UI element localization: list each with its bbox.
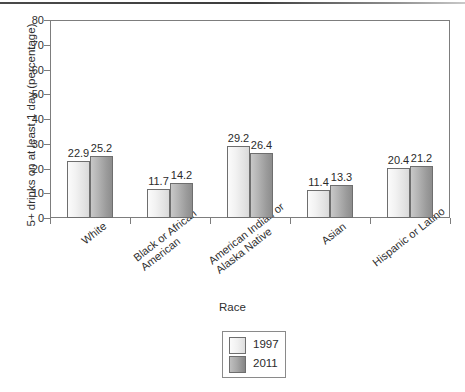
- x-axis-title: Race: [0, 301, 465, 313]
- bar-1997-2: [227, 146, 250, 218]
- bar-2011-4: [410, 166, 433, 218]
- y-tick-label: 60: [22, 65, 44, 76]
- bar-value-label: 14.2: [166, 170, 198, 181]
- legend: 1997 2011: [222, 331, 286, 378]
- legend-swatch-2011: [229, 356, 246, 373]
- bar-value-label: 26.4: [246, 140, 278, 151]
- legend-swatch-1997: [229, 337, 246, 354]
- y-tick-label: 40: [22, 114, 44, 125]
- y-tick-label: 20: [22, 164, 44, 175]
- bar-1997-1: [147, 189, 170, 218]
- bar-1997-4: [387, 168, 410, 218]
- legend-label-1997: 1997: [253, 338, 279, 351]
- y-tick-label: 70: [22, 40, 44, 51]
- x-tick-mark: [450, 218, 451, 224]
- bar-2011-3: [330, 185, 353, 218]
- bar-2011-0: [90, 156, 113, 218]
- bar-value-label: 21.2: [406, 153, 438, 164]
- bar-1997-3: [307, 190, 330, 218]
- legend-label-2011: 2011: [253, 357, 278, 370]
- y-tick-label: 50: [22, 89, 44, 100]
- y-tick-label: 10: [22, 188, 44, 199]
- y-tick-label: 0: [22, 213, 44, 224]
- bar-value-label: 25.2: [86, 143, 118, 154]
- bar-value-label: 13.3: [326, 172, 358, 183]
- bar-2011-1: [170, 183, 193, 218]
- bar-chart-figure: 5+ drinks on at least 1 day (percentage)…: [0, 0, 465, 392]
- x-category-label: Asian: [319, 220, 348, 246]
- x-tick-mark: [370, 218, 371, 224]
- bar-1997-0: [67, 161, 90, 218]
- y-tick-label: 80: [22, 15, 44, 26]
- x-tick-mark: [50, 218, 51, 224]
- bar-2011-2: [250, 153, 273, 218]
- x-category-label: White: [79, 219, 109, 246]
- y-tick-label: 30: [22, 139, 44, 150]
- x-tick-mark: [210, 218, 211, 224]
- x-tick-mark: [130, 218, 131, 224]
